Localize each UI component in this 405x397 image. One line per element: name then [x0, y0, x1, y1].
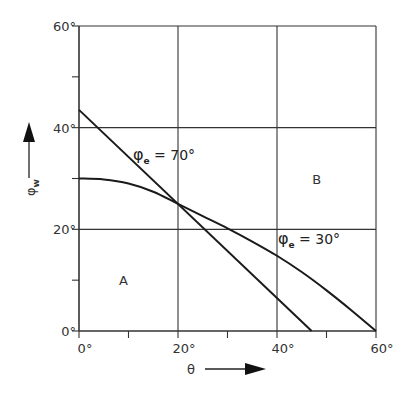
x-tick-label: 60°: [370, 341, 393, 356]
y-axis-label: φw: [23, 179, 41, 196]
x-axis-label: θ: [187, 362, 195, 377]
chart: φe = 70°φe = 30° 0°20°40°60°0°20°40°60° …: [0, 0, 405, 397]
x-tick-label: 20°: [172, 341, 195, 356]
x-axis-arrow: [205, 363, 266, 375]
region-label: A: [119, 273, 128, 288]
y-tick-label: 0°: [61, 324, 76, 339]
curves: φe = 70°φe = 30°: [79, 110, 376, 331]
series-label: φe = 70°: [133, 145, 195, 166]
region-label: B: [312, 172, 321, 187]
y-tick-label: 60°: [53, 19, 76, 34]
series-label: φe = 30°: [278, 229, 340, 250]
x-tick-label: 40°: [271, 341, 294, 356]
series-line: [79, 179, 376, 332]
x-tick-label: 0°: [78, 341, 93, 356]
tick-labels: 0°20°40°60°0°20°40°60°: [53, 19, 394, 356]
y-tick-label: 20°: [53, 222, 76, 237]
y-tick-label: 40°: [53, 121, 76, 136]
y-axis-arrow: [23, 122, 35, 178]
